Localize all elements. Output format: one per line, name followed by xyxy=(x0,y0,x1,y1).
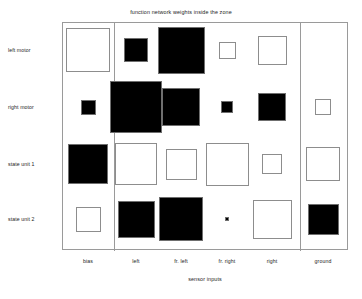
weight-square-state-unit-2-fr-left xyxy=(159,197,203,241)
weight-square-right-motor-fr-left xyxy=(162,88,200,126)
weight-square-left-motor-right xyxy=(258,36,287,65)
weight-square-right-motor-bias xyxy=(81,100,96,115)
weight-square-left-motor-fr-right xyxy=(219,42,236,59)
weight-square-left-motor-left xyxy=(124,38,148,62)
weight-square-right-motor-left xyxy=(110,81,162,133)
x-axis-title: sensor inputs xyxy=(62,276,348,282)
row-label-state-unit-1: state unit 1 xyxy=(8,161,60,167)
weight-square-state-unit-2-left xyxy=(118,201,155,238)
weight-square-right-motor-right xyxy=(258,93,286,121)
column-group-divider-1 xyxy=(114,23,115,251)
weight-square-state-unit-1-fr-right xyxy=(206,143,249,186)
weight-square-state-unit-2-ground xyxy=(308,204,339,235)
weight-square-right-motor-fr-right xyxy=(221,101,233,113)
column-group-divider-2 xyxy=(300,23,301,251)
weight-square-left-motor-bias xyxy=(66,28,110,72)
chart-title: function network weights inside the zone xyxy=(0,9,362,15)
weight-square-state-unit-2-right xyxy=(253,200,292,239)
weight-square-state-unit-2-bias xyxy=(76,207,101,232)
hinton-diagram-figure: function network weights inside the zone… xyxy=(0,0,362,299)
weight-square-state-unit-1-bias xyxy=(68,144,108,184)
weight-square-state-unit-1-right xyxy=(262,154,282,174)
weight-square-state-unit-1-ground xyxy=(306,147,340,181)
weight-square-state-unit-2-fr-right xyxy=(225,217,229,221)
row-label-left-motor: left motor xyxy=(8,47,60,53)
weight-square-left-motor-fr-left xyxy=(158,27,205,74)
row-label-right-motor: right motor xyxy=(8,104,60,110)
weight-square-state-unit-1-fr-left xyxy=(166,149,197,180)
weight-square-state-unit-1-left xyxy=(115,143,157,185)
weight-square-right-motor-ground xyxy=(315,99,331,115)
row-label-state-unit-2: state unit 2 xyxy=(8,216,60,222)
column-label-ground: ground xyxy=(293,258,353,264)
